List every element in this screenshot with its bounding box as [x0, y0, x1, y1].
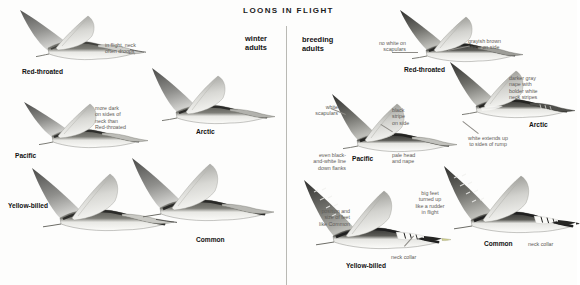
species-label-pacific-winter: Pacific — [15, 152, 36, 159]
note-white-scapulars: white scapulars — [296, 104, 338, 117]
right-panel-heading: breeding adults — [302, 35, 333, 53]
bird-winter-red-throated — [18, 4, 148, 74]
species-label-common-winter: Common — [196, 236, 225, 243]
species-label-red-throated-breeding: Red-throated — [404, 66, 445, 73]
leader-no-white-scapulars — [392, 52, 418, 53]
panel-divider — [286, 26, 287, 285]
species-label-yellow-billed-breeding: Yellow-billed — [346, 262, 386, 269]
note-neck-collar-yellow-billed: neck collar — [391, 254, 416, 260]
species-label-arctic-breeding: Arctic — [529, 121, 548, 128]
species-label-arctic-winter: Arctic — [196, 128, 215, 135]
note-even-black-white-line: even black- and-white line down flanks — [294, 152, 346, 171]
bird-winter-arctic — [146, 62, 276, 134]
species-label-red-throated-winter: Red-throated — [22, 68, 63, 75]
species-label-common-breeding: Common — [484, 240, 513, 247]
note-black-stripe-side: black stripe on side — [392, 107, 409, 126]
note-position-size-feet: position and size of feet like Common — [296, 208, 350, 227]
note-darker-gray-nape: darker gray nape with bolder white neck … — [509, 75, 538, 101]
note-pale-head-nape: pale head and nape — [392, 152, 415, 165]
note-more-dark-sides: more dark on sides of neck than Red-thro… — [95, 105, 126, 131]
bird-winter-common — [128, 150, 278, 234]
bird-breeding-common — [440, 162, 580, 246]
note-white-extends-rump: white extends up to sides of rump — [452, 135, 524, 148]
note-grayish-brown-stripe: grayish brown stripe on side — [468, 38, 501, 51]
note-neck-droops: in flight, neck often droops — [105, 42, 136, 55]
left-panel-heading: winter adults — [228, 34, 284, 52]
note-no-white-scapulars: no white on scapulars — [352, 40, 406, 53]
note-neck-collar-common: neck collar — [528, 241, 553, 247]
note-big-feet-rudder: big feet turned up like a rudder in flig… — [402, 190, 458, 216]
species-label-yellow-billed-winter: Yellow-billed — [8, 202, 48, 209]
species-label-pacific-breeding: Pacific — [352, 155, 373, 162]
